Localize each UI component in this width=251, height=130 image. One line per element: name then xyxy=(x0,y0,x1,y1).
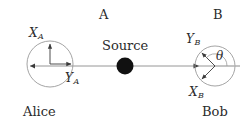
alice-axis-y-label: YA xyxy=(65,72,79,84)
source-dot xyxy=(117,58,134,75)
bob-axis-y-line xyxy=(202,53,215,66)
bob-axis-x-symbol: X xyxy=(189,85,198,99)
bob-axis-y-subscript: B xyxy=(194,38,200,47)
station-b-label: B xyxy=(213,8,223,21)
bob-axis-x-subscript: B xyxy=(198,91,204,100)
alice-axis-x-symbol: X xyxy=(29,26,38,40)
alice-axis-x-label: XA xyxy=(29,27,43,39)
figure-canvas: A B XA YA YB XB θ Source Alice Bob xyxy=(0,0,251,130)
alice-axis-y-subscript: A xyxy=(73,77,79,86)
bob-label: Bob xyxy=(202,105,228,118)
alice-label: Alice xyxy=(23,105,56,118)
beam-arrow-left xyxy=(30,64,35,69)
alice-axis-y-symbol: Y xyxy=(65,71,73,85)
station-a-label: A xyxy=(99,8,108,21)
alice-axis-x-subscript: A xyxy=(38,32,44,41)
bob-axis-x-label: XB xyxy=(189,86,203,98)
theta-angle-label: θ xyxy=(216,50,223,62)
bob-axis-y-label: YB xyxy=(186,33,200,45)
bob-axis-x-line xyxy=(202,66,215,79)
bob-axis-y-symbol: Y xyxy=(186,32,194,46)
source-label: Source xyxy=(102,39,148,52)
beam-arrow-right xyxy=(194,64,200,69)
